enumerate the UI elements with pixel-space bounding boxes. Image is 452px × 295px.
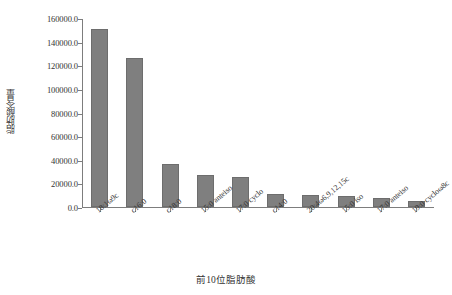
y-axis-tick-label: 40000.0	[18, 157, 78, 166]
y-axis-tick	[78, 19, 82, 20]
y-axis-tick	[78, 90, 82, 91]
y-axis-tick	[78, 137, 82, 138]
y-axis-tick-label: 140000.0	[18, 38, 78, 47]
y-axis-tick-label: 80000.0	[18, 109, 78, 118]
y-axis-tick-label: 60000.0	[18, 133, 78, 142]
y-axis-title: 脂肪酸含量	[4, 52, 18, 172]
bar	[91, 29, 108, 207]
bar	[126, 58, 143, 207]
y-axis-tick-label: 100000.0	[18, 86, 78, 95]
plot-area	[82, 19, 434, 208]
y-axis-tick	[78, 184, 82, 185]
y-axis-tick	[78, 43, 82, 44]
x-axis-title: 前10位脂肪酸	[0, 272, 452, 286]
y-axis-tick	[78, 114, 82, 115]
y-axis-tick-label: 160000.0	[18, 15, 78, 24]
y-axis-tick-label: 120000.0	[18, 62, 78, 71]
bar-series	[82, 19, 434, 208]
y-axis-tick	[78, 66, 82, 67]
bar-chart: 脂肪酸含量 0.020000.040000.060000.080000.0100…	[0, 0, 452, 295]
y-axis-tick	[78, 161, 82, 162]
x-axis-tick-labels: 18:1ω9cc16:0c18:015:0 anteiso17:0 cycloc…	[0, 208, 452, 278]
y-axis-tick-label: 20000.0	[18, 180, 78, 189]
